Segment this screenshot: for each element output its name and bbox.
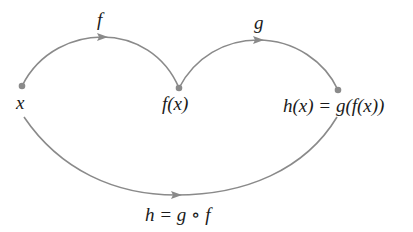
node-fx-dot: [176, 85, 183, 92]
node-label-fx: f(x): [162, 94, 188, 113]
edge-label-g: g: [254, 13, 264, 32]
node-hx-dot: [335, 87, 342, 94]
arc-g: [179, 40, 338, 90]
node-label-x: x: [16, 93, 24, 112]
edge-label-f: f: [97, 10, 102, 29]
node-x-dot: [19, 83, 26, 90]
edge-label-h: h = g ∘ f: [145, 205, 210, 224]
arc-h: [24, 117, 337, 195]
node-label-hx: h(x) = g(f(x)): [283, 96, 384, 115]
arc-f: [22, 37, 179, 88]
composition-diagram: [0, 0, 413, 232]
